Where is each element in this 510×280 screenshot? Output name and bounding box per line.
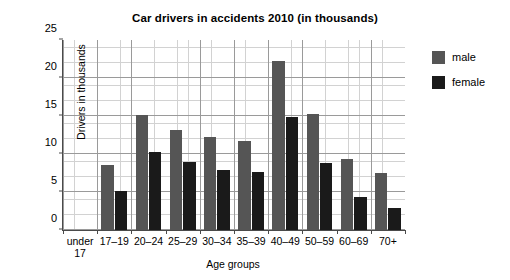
- bar-female: [115, 191, 128, 230]
- bar-group: [371, 40, 405, 230]
- bar-group: [268, 40, 302, 230]
- x-tick-mark: [234, 230, 235, 234]
- y-tick-mark: [59, 191, 63, 192]
- x-axis-label: Age groups: [62, 258, 404, 270]
- bar-female: [252, 172, 265, 230]
- bar-male: [238, 141, 251, 230]
- y-tick-mark: [59, 115, 63, 116]
- bar-male: [272, 61, 285, 230]
- x-tick-mark: [200, 230, 201, 234]
- plot-area: 0510152025 under 1717–1920–2425–2930–343…: [62, 40, 405, 231]
- bar-female: [286, 117, 299, 230]
- legend-item: male: [432, 50, 485, 64]
- y-tick-label: 10: [17, 136, 57, 148]
- bar-female: [354, 197, 367, 230]
- bar-group: [302, 40, 336, 230]
- x-tick-mark: [131, 230, 132, 234]
- x-tick-label: 70+: [365, 235, 411, 247]
- bar-chart-figure: Car drivers in accidents 2010 (in thousa…: [0, 0, 510, 280]
- bar-female: [183, 162, 196, 230]
- chart-legend: malefemale: [432, 50, 485, 100]
- x-tick-mark: [405, 230, 406, 234]
- legend-swatch-icon: [432, 51, 445, 64]
- bar-female: [320, 163, 333, 230]
- legend-item: female: [432, 75, 485, 89]
- bar-male: [307, 114, 320, 230]
- x-tick-mark: [63, 230, 64, 234]
- bar-female: [217, 170, 230, 230]
- x-tick-mark: [97, 230, 98, 234]
- legend-swatch-icon: [432, 76, 445, 89]
- y-tick-label: 25: [17, 22, 57, 34]
- x-tick-mark: [302, 230, 303, 234]
- bar-male: [136, 115, 149, 230]
- y-tick-mark: [59, 39, 63, 40]
- bar-group: [200, 40, 234, 230]
- x-tick-mark: [337, 230, 338, 234]
- x-tick-mark: [371, 230, 372, 234]
- bar-male: [101, 165, 114, 230]
- bar-male: [341, 159, 354, 230]
- legend-label: female: [452, 76, 485, 88]
- bar-male: [170, 130, 183, 230]
- bar-group: [166, 40, 200, 230]
- legend-label: male: [452, 51, 476, 63]
- bar-male: [375, 173, 388, 230]
- y-axis-label: Drivers in thousands: [75, 12, 87, 172]
- bar-male: [204, 137, 217, 230]
- y-tick-label: 0: [17, 212, 57, 224]
- bar-group: [337, 40, 371, 230]
- y-tick-label: 15: [17, 98, 57, 110]
- y-tick-label: 5: [17, 174, 57, 186]
- bar-female: [149, 152, 162, 230]
- y-tick-mark: [59, 77, 63, 78]
- y-tick-label: 20: [17, 60, 57, 72]
- bar-female: [388, 208, 401, 230]
- x-tick-mark: [166, 230, 167, 234]
- bar-group: [131, 40, 165, 230]
- bar-group: [234, 40, 268, 230]
- y-tick-mark: [59, 153, 63, 154]
- bar-group: [97, 40, 131, 230]
- x-tick-mark: [268, 230, 269, 234]
